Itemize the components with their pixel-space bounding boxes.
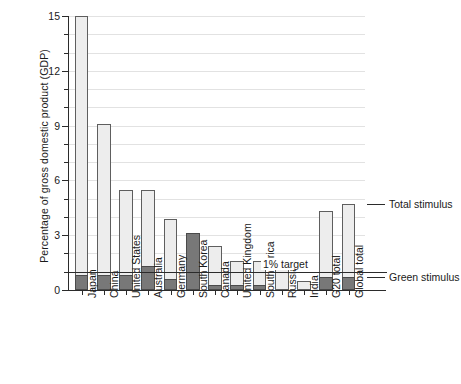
plot-area: 03691215 JapanChinaUnited StatesAustrali… (68, 16, 365, 290)
y-tick-minor (64, 217, 68, 218)
y-tick-minor (64, 144, 68, 145)
y-tick-label: 9 (42, 121, 60, 131)
y-tick-label: 12 (42, 66, 60, 76)
gridline (69, 89, 365, 90)
y-axis-title: Percentage of gross domestic product (GD… (38, 16, 50, 296)
x-tick (148, 290, 149, 295)
y-tick-minor (64, 53, 68, 54)
bar (75, 16, 89, 290)
x-tick (304, 290, 305, 295)
x-tick (215, 290, 216, 295)
y-tick-label: 15 (42, 11, 60, 21)
x-axis-label: India (308, 275, 320, 298)
y-tick-minor (64, 253, 68, 254)
gridline (69, 71, 365, 72)
bar-segment-total-stimulus (75, 16, 89, 290)
chart-figure: Percentage of gross domestic product (GD… (0, 0, 461, 384)
y-tick-minor (64, 107, 68, 108)
gridline (69, 34, 365, 35)
legend-label: Green stimulus (389, 271, 460, 283)
y-tick-major (62, 290, 68, 291)
x-tick (126, 290, 127, 295)
y-tick-minor (64, 162, 68, 163)
x-tick (237, 290, 238, 295)
x-axis-label: China (108, 271, 120, 298)
x-axis-label: Australia (152, 257, 164, 298)
y-tick-major (62, 180, 68, 181)
x-axis-label: South Korea (197, 240, 209, 298)
x-axis-label: Germany (175, 255, 187, 298)
bar-segment-total-stimulus (97, 124, 111, 290)
x-tick (282, 290, 283, 295)
x-axis-label: G20 total (330, 255, 342, 298)
target-label: 1% target (261, 258, 310, 270)
y-tick-major (62, 126, 68, 127)
x-tick (193, 290, 194, 295)
gridline (69, 126, 365, 127)
x-axis-label: United Kingdom (241, 223, 253, 298)
y-tick-label: 3 (42, 230, 60, 240)
y-tick-major (62, 71, 68, 72)
x-axis-label: Japan (86, 269, 98, 298)
bar (97, 124, 111, 290)
y-tick-label: 0 (42, 285, 60, 295)
y-axis-line (68, 16, 69, 290)
gridline (69, 144, 365, 145)
y-tick-label: 6 (42, 175, 60, 185)
y-tick-minor (64, 199, 68, 200)
y-tick-major (62, 235, 68, 236)
y-tick-minor (64, 89, 68, 90)
x-tick (104, 290, 105, 295)
gridline (69, 180, 365, 181)
x-axis-label: United States (130, 235, 142, 298)
legend-leader-line (367, 204, 385, 205)
y-tick-minor (64, 34, 68, 35)
x-axis-label: Russia (286, 266, 298, 298)
x-tick (349, 290, 350, 295)
gridline (69, 107, 365, 108)
gridline (69, 162, 365, 163)
y-tick-major (62, 16, 68, 17)
x-tick (171, 290, 172, 295)
legend-label: Total stimulus (389, 198, 453, 210)
gridline (69, 16, 365, 17)
gridline (69, 199, 365, 200)
gridline (69, 53, 365, 54)
x-tick (82, 290, 83, 295)
x-axis-label: Canada (219, 261, 231, 298)
legend-leader-line (367, 277, 385, 278)
x-tick (260, 290, 261, 295)
target-line (68, 272, 387, 273)
x-tick (326, 290, 327, 295)
